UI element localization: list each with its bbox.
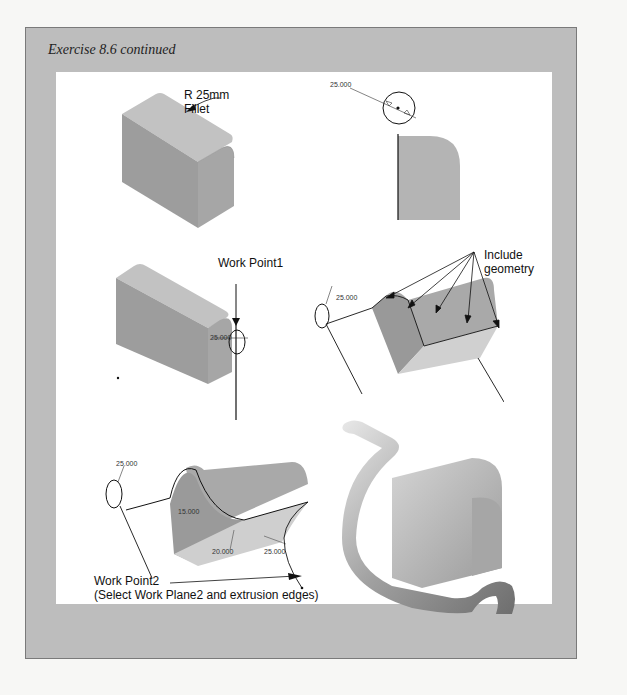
figure-panel: R 25mm Fillet 25.000 Work Point1 25.000	[56, 72, 552, 604]
sweep-dimension-1: 25.000	[116, 460, 137, 467]
sweep-dimension-4: 25.000	[264, 548, 285, 555]
work-point2-arrow	[168, 572, 308, 588]
fillet-callout-line2: Fillet	[184, 102, 209, 116]
include-geometry-line1: Include	[484, 248, 523, 262]
work-point1-figure	[112, 262, 252, 422]
sweep-dimension-2: 15.000	[178, 508, 199, 515]
include-geometry-figure	[314, 250, 504, 410]
fillet-callout-line1: R 25mm	[184, 88, 229, 102]
profile-dimension: 25.000	[330, 81, 351, 88]
include-geometry-drawing	[314, 250, 504, 410]
final-part-drawing	[332, 418, 532, 618]
fillet-block-figure	[116, 86, 236, 236]
work-point1-drawing	[112, 262, 252, 422]
work-point2-label: Work Point2	[94, 574, 159, 588]
work-point1-label: Work Point1	[218, 256, 283, 270]
sweep-dimension-3: 20.000	[212, 548, 233, 555]
include-geometry-dimension: 25.000	[336, 294, 357, 301]
final-part-figure	[332, 418, 532, 618]
fillet-block-drawing	[116, 86, 236, 236]
sketch-profile-drawing	[340, 76, 460, 221]
exercise-title: Exercise 8.6 continued	[48, 42, 175, 58]
include-geometry-line2: geometry	[484, 262, 534, 276]
work-point1-dimension: 25.000	[210, 334, 231, 341]
work-point2-hint: (Select Work Plane2 and extrusion edges)	[94, 588, 319, 602]
sketch-profile-figure	[340, 76, 460, 221]
